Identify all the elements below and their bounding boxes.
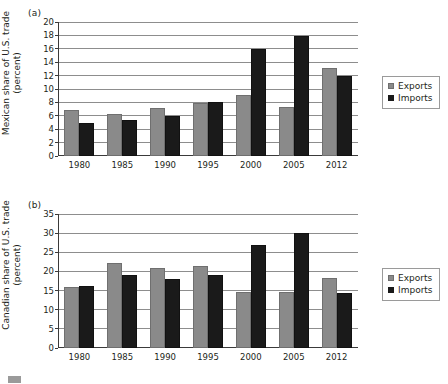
panel-a-bar-group xyxy=(144,22,187,156)
panel-b-bar-imports xyxy=(294,233,309,348)
panel-a-bar-group xyxy=(187,22,230,156)
panel-a-y-tick-label: 6 xyxy=(14,111,58,121)
legend-label-exports: Exports xyxy=(398,80,432,92)
panel-b-y-tick-label: 20 xyxy=(14,266,58,276)
panel-a-bar-exports xyxy=(107,114,122,156)
panel-a-y-tick-label: 12 xyxy=(14,71,58,81)
panel-a-bar-imports xyxy=(337,76,352,156)
panel-a-bar-exports xyxy=(322,68,337,156)
panel-b-bar-group xyxy=(144,214,187,348)
panel-b-x-tick-label: 2000 xyxy=(229,352,272,362)
panel-a-x-tick-labels: 1980198519901995200020052012 xyxy=(58,160,358,170)
panel-b-bar-exports xyxy=(150,268,165,348)
panel-a-x-tick-label: 2012 xyxy=(315,160,358,170)
panel-b-x-tick-label: 2005 xyxy=(272,352,315,362)
panel-b-bar-imports xyxy=(79,286,94,348)
panel-b-bar-imports xyxy=(165,279,180,348)
panel-b-y-tick-label: 30 xyxy=(14,228,58,238)
panel-a-x-tick-label: 2005 xyxy=(272,160,315,170)
legend-item-imports: Imports xyxy=(388,92,433,104)
panel-a-y-tick-label: 0 xyxy=(14,151,58,161)
panel-b-bar-group xyxy=(272,214,315,348)
panel-b-x-tick-label: 1990 xyxy=(144,352,187,362)
panel-a-x-tick-label: 1995 xyxy=(187,160,230,170)
panel-b-bar-exports xyxy=(236,292,251,348)
panel-a-bar-group xyxy=(272,22,315,156)
panel-a-bar-groups xyxy=(58,22,358,156)
panel-b-bar-imports xyxy=(208,275,223,348)
panel-b-bar-group xyxy=(315,214,358,348)
panel-a-bar-exports xyxy=(64,110,79,156)
panel-a-x-tick-label: 1990 xyxy=(144,160,187,170)
panel-b-y-tick-label: 0 xyxy=(14,343,58,353)
panel-b-x-tick-label: 1995 xyxy=(187,352,230,362)
panel-a-y-tick-label: 14 xyxy=(14,57,58,67)
panel-b-bar-group xyxy=(229,214,272,348)
legend-swatch-exports-icon xyxy=(388,83,394,89)
panel-a-y-tick-label: 2 xyxy=(14,138,58,148)
legend-swatch-imports-icon xyxy=(388,287,394,293)
legend-item-exports: Exports xyxy=(388,272,433,284)
panel-a-x-tick-label: 2000 xyxy=(229,160,272,170)
panel-a-bar-imports xyxy=(122,120,137,156)
panel-b-legend: Exports Imports xyxy=(382,268,440,301)
panel-b-y-tick-label: 5 xyxy=(14,324,58,334)
panel-a-legend: Exports Imports xyxy=(382,76,440,109)
panel-a-bar-exports xyxy=(193,103,208,156)
panel-a-y-tick-label: 18 xyxy=(14,30,58,40)
panel-b-x-tick-label: 1985 xyxy=(101,352,144,362)
panel-b-y-tick-label: 10 xyxy=(14,305,58,315)
panel-b-bar-imports xyxy=(251,245,266,348)
panel-b-bar-group xyxy=(58,214,101,348)
panel-b-bar-exports xyxy=(322,278,337,348)
panel-b-plot-area: 05101520253035 xyxy=(58,214,358,348)
panel-b-x-tick-labels: 1980198519901995200020052012 xyxy=(58,352,358,362)
panel-b-bar-imports xyxy=(122,275,137,349)
panel-b-bar-group xyxy=(187,214,230,348)
panel-b-x-tick-label: 2012 xyxy=(315,352,358,362)
panel-a-y-tick-label: 16 xyxy=(14,44,58,54)
panel-a-bar-exports xyxy=(236,95,251,156)
panel-b-bar-imports xyxy=(337,293,352,348)
panel-b-y-tick-label: 15 xyxy=(14,286,58,296)
panel-a-bar-imports xyxy=(294,36,309,156)
panel-b-bar-exports xyxy=(193,266,208,348)
panel-b-y-axis-label-line1: Canadian share of U.S. trade xyxy=(1,200,11,330)
panel-a-bar-imports xyxy=(165,116,180,156)
panel-a-bar-imports xyxy=(208,102,223,156)
panel-b-bar-groups xyxy=(58,214,358,348)
panel-a-bar-imports xyxy=(79,123,94,157)
panel-a-x-tick-label: 1985 xyxy=(101,160,144,170)
legend-swatch-imports-icon xyxy=(388,95,394,101)
panel-a-bar-group xyxy=(315,22,358,156)
caption-marker-icon xyxy=(8,376,21,383)
panel-b-bar-exports xyxy=(64,287,79,348)
panel-a: (a) Mexican share of U.S. trade (percent… xyxy=(0,0,448,192)
panel-b-x-tick-label: 1980 xyxy=(58,352,101,362)
panel-a-y-tick-label: 4 xyxy=(14,124,58,134)
panel-b-y-tick-label: 25 xyxy=(14,247,58,257)
panel-a-y-axis-label-line1: Mexican share of U.S. trade xyxy=(1,11,11,135)
legend-label-imports: Imports xyxy=(398,92,433,104)
panel-a-bar-group xyxy=(101,22,144,156)
panel-b-bar-exports xyxy=(279,292,294,348)
panel-b-bar-exports xyxy=(107,263,122,348)
panel-a-plot-area: 02468101214161820 xyxy=(58,22,358,156)
legend-label-exports: Exports xyxy=(398,272,432,284)
legend-item-imports: Imports xyxy=(388,284,433,296)
panel-a-bar-exports xyxy=(150,108,165,156)
panel-a-bar-group xyxy=(58,22,101,156)
panel-a-y-tick-label: 10 xyxy=(14,84,58,94)
panel-b-bar-group xyxy=(101,214,144,348)
panel-a-bar-exports xyxy=(279,107,294,156)
panel-a-bar-imports xyxy=(251,49,266,156)
legend-label-imports: Imports xyxy=(398,284,433,296)
panel-b-y-tick-label: 35 xyxy=(14,209,58,219)
panel-a-x-tick-label: 1980 xyxy=(58,160,101,170)
panel-a-y-tick-label: 20 xyxy=(14,17,58,27)
panel-a-y-tick-label: 8 xyxy=(14,97,58,107)
legend-swatch-exports-icon xyxy=(388,275,394,281)
legend-item-exports: Exports xyxy=(388,80,433,92)
panel-a-bar-group xyxy=(229,22,272,156)
